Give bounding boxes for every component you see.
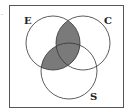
bullet-mark: .: [1, 9, 3, 16]
venn-diagram: . E C S: [0, 0, 126, 111]
label-e: E: [24, 15, 32, 26]
label-s: S: [90, 91, 97, 102]
label-c: C: [104, 15, 112, 26]
